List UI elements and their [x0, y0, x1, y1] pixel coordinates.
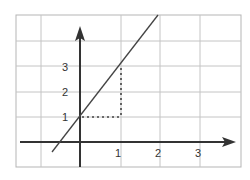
- axes: [20, 26, 236, 167]
- y-tick-2: 2: [62, 86, 68, 98]
- graph-line: [52, 15, 158, 152]
- y-tick-1: 1: [62, 111, 68, 123]
- x-tick-3: 3: [195, 147, 201, 159]
- grid: [16, 15, 241, 167]
- slope-diagram: 1 2 3 1 2 3: [0, 0, 250, 180]
- y-tick-3: 3: [62, 61, 68, 73]
- x-tick-2: 2: [155, 147, 161, 159]
- x-tick-1: 1: [115, 147, 121, 159]
